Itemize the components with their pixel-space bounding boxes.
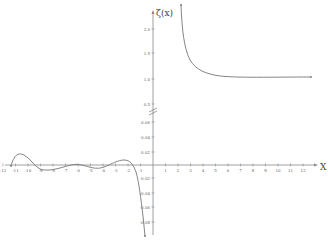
y-axis-title: ζ(x): [156, 8, 173, 18]
y-tick-label: -0.04: [140, 191, 151, 196]
x-tick-label: -2: [126, 168, 130, 173]
x-tick-label: 8: [252, 168, 255, 173]
x-tick-label: -4: [101, 168, 105, 173]
x-axis-arrow: [314, 164, 318, 167]
x-tick-label: -12: [0, 168, 7, 173]
y-tick-label: -0.02: [140, 176, 151, 181]
curve-right-start-point: [180, 4, 182, 6]
y-tick-label: 1.5: [144, 51, 151, 56]
x-tick-label: 5: [214, 168, 217, 173]
x-tick-label: 11: [288, 168, 293, 173]
x-tick-label: -6: [76, 168, 80, 173]
x-tick-label: -10: [25, 168, 32, 173]
curve-right-end-point: [310, 76, 312, 78]
curve-right: [181, 5, 311, 77]
x-axis-title: X: [320, 162, 327, 172]
zeta-function-chart: -12-11-10-9-8-7-6-5-4-3-2-11234567891011…: [0, 0, 328, 252]
x-tick-label: 1: [164, 168, 167, 173]
x-tick-label: 2: [177, 168, 180, 173]
y-tick-label: 0.5: [144, 102, 151, 107]
x-tick-label: -3: [114, 168, 118, 173]
x-tick-label: 3: [189, 168, 192, 173]
y-tick-label: 0.06: [141, 120, 150, 125]
y-tick-label: 0.02: [141, 150, 150, 155]
y-ticks: 2.01.51.00.50.060.040.02-0.02-0.04-0.06-…: [140, 27, 155, 225]
y-tick-label: 2.0: [144, 27, 151, 32]
x-tick-label: -11: [12, 168, 18, 173]
x-tick-label: 9: [264, 168, 267, 173]
x-tick-label: 10: [275, 168, 281, 173]
x-tick-label: 6: [227, 168, 230, 173]
x-tick-label: -5: [89, 168, 93, 173]
x-tick-label: 12: [300, 168, 306, 173]
y-tick-label: 1.0: [144, 77, 151, 82]
x-tick-label: -7: [64, 168, 68, 173]
y-axis-arrow: [152, 10, 155, 14]
curve-left-end-point: [144, 235, 146, 237]
curve-left-start-point: [10, 165, 12, 167]
x-tick-label: 4: [202, 168, 205, 173]
y-tick-label: -0.08: [140, 220, 151, 225]
x-tick-label: -1: [139, 168, 143, 173]
y-tick-label: 0.04: [141, 135, 150, 140]
x-tick-label: 7: [239, 168, 242, 173]
